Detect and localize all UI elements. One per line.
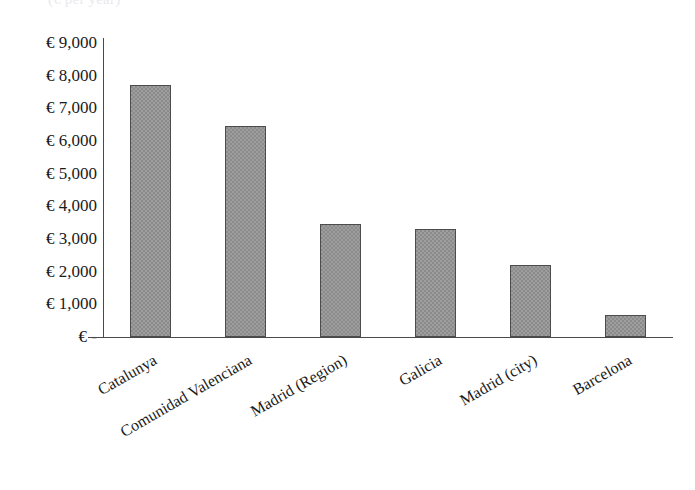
y-axis-tick-label: € 5,000	[5, 165, 97, 182]
y-axis-tick-label: € 3,000	[5, 230, 97, 247]
bar	[320, 224, 361, 337]
y-axis-tick-label: € 4,000	[5, 197, 97, 214]
x-axis-category-label-text: Barcelona	[569, 351, 634, 399]
y-axis-tick-label: € 8,000	[5, 67, 97, 84]
y-axis-tick-label: € 6,000	[5, 132, 97, 149]
bar	[415, 229, 456, 337]
bar	[605, 315, 646, 337]
x-axis-category-label-text: Madrid (city)	[456, 351, 539, 409]
plot-area	[103, 43, 673, 337]
x-axis-category-label-text: Galicia	[395, 351, 444, 390]
bar	[510, 265, 551, 337]
y-axis-tick-label: € 2,000	[5, 263, 97, 280]
x-axis-category-label-text: Catalunya	[94, 351, 159, 399]
y-axis-tick-label: € -	[5, 328, 97, 345]
bar-chart: (€ per year) € 9,000€ 8,000€ 7,000€ 6,00…	[0, 0, 695, 490]
y-axis-tick-label: € 7,000	[5, 99, 97, 116]
bar	[130, 85, 171, 337]
bar	[225, 126, 266, 337]
y-axis-tick-label: € 9,000	[5, 34, 97, 51]
y-axis-tick-label: € 1,000	[5, 295, 97, 312]
x-axis-category-labels: CatalunyaComunidad ValencianaMadrid (Reg…	[103, 337, 673, 487]
